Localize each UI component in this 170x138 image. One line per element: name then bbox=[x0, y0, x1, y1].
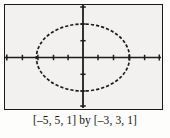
graphing-calculator-screen bbox=[4, 4, 163, 110]
viewing-window-caption: [–5, 5, 1] by [–3, 3, 1] bbox=[0, 113, 170, 127]
plot-canvas bbox=[5, 5, 161, 108]
figure-container: [–5, 5, 1] by [–3, 3, 1] bbox=[0, 0, 170, 138]
